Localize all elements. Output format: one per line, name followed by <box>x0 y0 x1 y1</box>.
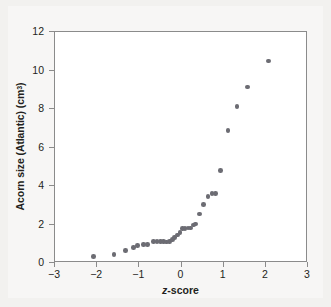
scatter-point <box>218 168 223 173</box>
x-axis-title: z-score <box>54 284 307 296</box>
y-axis-tick-label: 12 <box>32 26 44 36</box>
plot-area <box>54 31 307 262</box>
x-axis-tick-label: 1 <box>210 269 236 280</box>
figure-root: 024681012 −3−2−10123 Acorn size (Atlanti… <box>0 0 331 307</box>
y-axis-title-close: ) <box>14 83 26 86</box>
y-axis-title-text: Acorn size (Atlantic) (cm <box>14 90 26 211</box>
x-axis-tick <box>54 262 55 267</box>
x-axis-tick-label: −3 <box>41 269 67 280</box>
x-axis-tick-label: 3 <box>294 269 320 280</box>
scatter-point <box>266 59 271 64</box>
scatter-point <box>193 222 198 227</box>
y-axis-tick-label: 2 <box>38 219 44 229</box>
x-axis-title-rest: -score <box>167 284 199 296</box>
x-axis-tick <box>265 262 266 267</box>
scatter-point <box>235 104 240 109</box>
x-axis-tick <box>96 262 97 267</box>
y-axis-tick-label: 0 <box>38 257 44 267</box>
y-axis-tick-label: 10 <box>32 65 44 75</box>
scatter-point <box>201 202 206 207</box>
x-axis-tick-label: −1 <box>125 269 151 280</box>
scatter-point <box>197 212 202 217</box>
y-axis-tick-label: 8 <box>38 103 44 113</box>
scatter-point <box>145 242 150 247</box>
scatter-points-layer <box>55 32 306 261</box>
x-axis-tick <box>307 262 308 267</box>
y-axis-title: Acorn size (Atlantic) (cm3) <box>12 31 28 262</box>
x-axis-tick <box>181 262 182 267</box>
scatter-point <box>245 85 250 90</box>
y-axis-tick-label: 4 <box>38 180 44 190</box>
scatter-point <box>135 243 140 248</box>
x-axis-tick-label: 0 <box>168 269 194 280</box>
scatter-point <box>213 191 218 196</box>
scatter-point <box>112 252 117 257</box>
y-axis-tick-label: 6 <box>38 142 44 152</box>
x-axis-tick <box>138 262 139 267</box>
x-axis-tick-label: −2 <box>83 269 109 280</box>
scatter-point <box>91 254 96 259</box>
scatter-point <box>123 248 128 253</box>
x-axis-tick-label: 2 <box>252 269 278 280</box>
scatter-point <box>226 128 231 133</box>
x-axis-tick <box>223 262 224 267</box>
